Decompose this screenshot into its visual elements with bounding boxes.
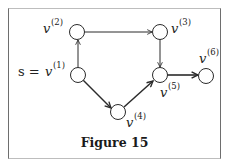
svg-text:(4): (4) — [134, 111, 146, 121]
svg-text:v: v — [171, 21, 179, 36]
svg-text:v: v — [126, 115, 134, 130]
svg-text:v: v — [160, 85, 168, 100]
label-v3: v (3) — [171, 17, 191, 36]
label-v2: v (2) — [43, 17, 63, 36]
node-v3 — [153, 25, 168, 40]
node-v1 — [71, 68, 86, 83]
label-v4: v (4) — [126, 111, 146, 130]
svg-text:v: v — [45, 64, 53, 79]
node-v4 — [111, 105, 126, 120]
node-v6 — [199, 69, 214, 84]
node-v2 — [70, 25, 85, 40]
svg-text:v: v — [43, 21, 51, 36]
label-v1: s = v (1) — [18, 60, 65, 79]
svg-text:(5): (5) — [168, 81, 180, 91]
svg-text:(2): (2) — [51, 17, 63, 27]
edge-v4-v5 — [124, 81, 153, 107]
svg-text:v: v — [199, 51, 207, 66]
figure-caption: Figure 15 — [0, 135, 229, 150]
label-v6: v (6) — [199, 47, 219, 66]
svg-text:s =: s = — [18, 64, 40, 79]
svg-text:(1): (1) — [53, 60, 65, 70]
edge-v1-v4 — [83, 80, 111, 108]
node-v5 — [153, 68, 168, 83]
label-v5: v (5) — [160, 81, 180, 100]
svg-text:(3): (3) — [179, 17, 191, 27]
svg-text:(6): (6) — [207, 47, 219, 57]
